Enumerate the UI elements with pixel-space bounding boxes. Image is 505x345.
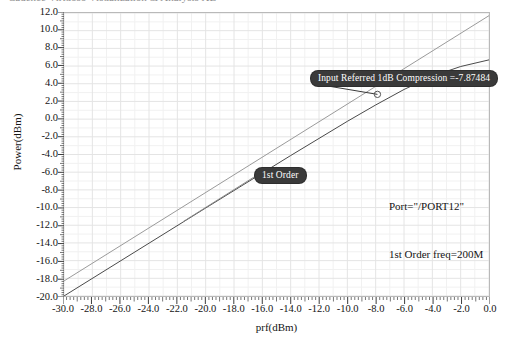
y-tick-label: 4.0: [4, 78, 58, 88]
port-note: Port="/PORT12": [389, 200, 464, 212]
y-tick-label: 12.0: [4, 7, 58, 17]
y-tick-labels: 12.010.08.06.04.02.00.0-2.0-4.0-6.0-8.0-…: [0, 0, 58, 345]
x-tick-label: 0.0: [470, 303, 505, 314]
y-tick-label: -12.0: [4, 220, 58, 230]
y-tick-label: -18.0: [4, 274, 58, 284]
chart-figure: 12.010.08.06.04.02.00.0-2.0-4.0-6.0-8.0-…: [0, 0, 505, 345]
y-axis-ruler: [58, 12, 64, 297]
y-tick-label: -14.0: [4, 238, 58, 248]
x-axis-title: prf(dBm): [63, 321, 490, 333]
y-axis-title: Power(dBm): [11, 97, 23, 187]
y-tick-label: 6.0: [4, 60, 58, 70]
y-tick-label: 8.0: [4, 42, 58, 52]
frequency-note: 1st Order freq=200M: [389, 248, 483, 260]
y-tick-label: -16.0: [4, 256, 58, 266]
x-tick-labels: -30.0-28.0-26.0-24.0-22.0-20.0-18.0-16.0…: [0, 303, 505, 319]
y-tick-label: -10.0: [4, 202, 58, 212]
y-tick-label: 10.0: [4, 24, 58, 34]
compression-annotation[interactable]: Input Referred 1dB Compression =-7.87484: [311, 71, 497, 86]
first-order-annotation[interactable]: 1st Order: [255, 168, 306, 183]
y-tick-label: -20.0: [4, 292, 58, 302]
